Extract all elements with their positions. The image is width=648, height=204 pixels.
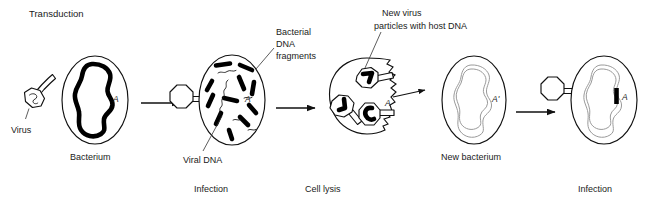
- new-bacterium-caption: New bacterium: [441, 152, 501, 162]
- transduced-gene-a-label: A: [621, 92, 628, 102]
- attached-virus-capsid-2: [541, 77, 564, 100]
- caption-infection-2: Infection: [578, 184, 612, 194]
- caption-cell-lysis: Cell lysis: [305, 184, 341, 194]
- caption-infection-1: Infection: [194, 184, 228, 194]
- figure-canvas: Transduction Virus A Bacterium: [0, 0, 648, 204]
- stage-2-infected-cell-group: A Bacterial DNA fragments Viral DNA Infe…: [170, 27, 317, 194]
- stage-4-new-bacterium-group: A' New bacterium: [441, 56, 506, 162]
- new-virus-gene-a-label: A: [384, 98, 391, 108]
- bacterial-dna-fragments-label-line3: fragments: [276, 51, 317, 61]
- bacterial-dna-fragments-label-line2: DNA: [276, 39, 295, 49]
- attached-virus-capsid-1: [170, 85, 193, 108]
- stage-1-virus-group: Virus: [11, 75, 56, 136]
- infected-cell-gene-a-label: A: [244, 94, 251, 104]
- new-bacterium-gene-a-prime-label: A': [491, 94, 500, 104]
- arrow-stage3-to-stage4: [393, 90, 425, 97]
- figure-title: Transduction: [29, 8, 84, 19]
- new-virus-particles-label-line1: New virus: [382, 8, 422, 18]
- bacterium-caption: Bacterium: [70, 152, 111, 162]
- bacterium-gene-a-label: A: [112, 94, 119, 104]
- transduction-diagram: Transduction Virus A Bacterium: [0, 0, 648, 204]
- transduced-gene-a-segment: [614, 88, 619, 104]
- dna-fragment: [216, 64, 230, 66]
- new-virus-particles-label-line2: particles with host DNA: [374, 21, 467, 31]
- dna-fragment: [252, 82, 254, 94]
- viral-dna-label: Viral DNA: [183, 155, 222, 165]
- bacterial-dna-fragments-label-line1: Bacterial: [276, 27, 311, 37]
- stage-5-transduced-group: A Infection: [541, 56, 637, 194]
- dna-fragment: [229, 130, 232, 139]
- virus-leader-line: [26, 109, 30, 120]
- bacterial-dna-leader-line: [256, 48, 274, 69]
- virus-label: Virus: [11, 125, 32, 135]
- stage-1-bacterium-group: A Bacterium: [62, 56, 128, 162]
- dna-fragment: [224, 98, 237, 101]
